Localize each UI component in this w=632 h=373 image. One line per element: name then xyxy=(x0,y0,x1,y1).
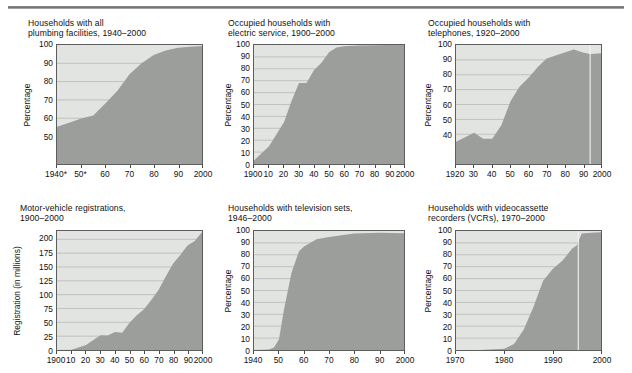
chart-panel-vcr: Households with videocassette recorders … xyxy=(0,0,632,373)
plot-area-vcr xyxy=(455,230,602,351)
y-tick-label: 60 xyxy=(434,273,452,283)
x-tick-label: 1970 xyxy=(446,355,465,365)
chart-title-vcr: Households with videocassette recorders … xyxy=(428,203,549,223)
y-tick-label: 50 xyxy=(434,286,452,296)
x-tick-mark xyxy=(455,351,456,354)
y-tick-label: 70 xyxy=(434,261,452,271)
y-tick-label: 100 xyxy=(434,225,452,235)
area-series xyxy=(456,232,601,350)
x-tick-mark xyxy=(553,351,554,354)
y-tick-label: 10 xyxy=(434,334,452,344)
figure-page: Households with all plumbing facilities,… xyxy=(0,0,632,373)
x-tick-mark xyxy=(504,351,505,354)
x-tick-label: 1990 xyxy=(544,355,563,365)
y-tick-label: 20 xyxy=(434,322,452,332)
y-tick-label: 90 xyxy=(434,237,452,247)
y-tick-label: 80 xyxy=(434,249,452,259)
y-axis-label-vcr: Percentage xyxy=(423,269,433,312)
x-tick-mark xyxy=(601,351,602,354)
y-tick-label: 30 xyxy=(434,310,452,320)
y-tick-label: 40 xyxy=(434,298,452,308)
x-tick-label: 1980 xyxy=(495,355,514,365)
x-tick-label: 2000 xyxy=(593,355,612,365)
